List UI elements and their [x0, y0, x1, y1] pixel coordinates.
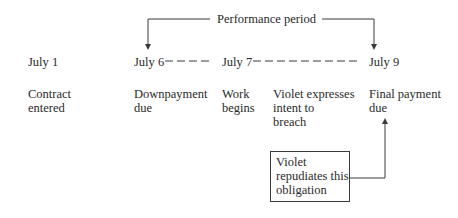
event-line: Work: [222, 87, 255, 101]
event-downpayment-due: Downpayment due: [134, 87, 208, 115]
event-final-payment-due: Final payment due: [369, 87, 441, 115]
arrow-down-icon: [145, 44, 151, 50]
event-line: begins: [222, 101, 255, 115]
event-line: entered: [28, 101, 71, 115]
date-july-1: July 1: [28, 55, 58, 69]
callout-line: Violet: [276, 155, 344, 169]
event-line: Downpayment: [134, 87, 208, 101]
date-july-9: July 9: [369, 55, 399, 69]
callout-connector: [350, 123, 385, 178]
event-line: Contract: [28, 87, 71, 101]
event-contract-entered: Contract entered: [28, 87, 71, 115]
event-line: due: [134, 101, 208, 115]
repudiation-callout-box: Violet repudiates this obligation: [270, 151, 350, 202]
event-work-begins: Work begins: [222, 87, 255, 115]
callout-line: obligation: [276, 183, 344, 197]
arrow-down-icon: [371, 44, 377, 50]
date-july-6: July 6: [134, 55, 164, 69]
date-july-7: July 7: [222, 55, 252, 69]
callout-line: repudiates this: [276, 169, 344, 183]
event-intent-to-breach: Violet expresses intent to breach: [273, 87, 355, 129]
event-line: due: [369, 101, 441, 115]
arrow-up-icon: [382, 118, 388, 124]
event-line: Violet expresses: [273, 87, 355, 101]
event-line: Final payment: [369, 87, 441, 101]
event-line: intent to: [273, 101, 355, 115]
performance-period-label: Performance period: [214, 12, 319, 26]
event-line: breach: [273, 115, 355, 129]
